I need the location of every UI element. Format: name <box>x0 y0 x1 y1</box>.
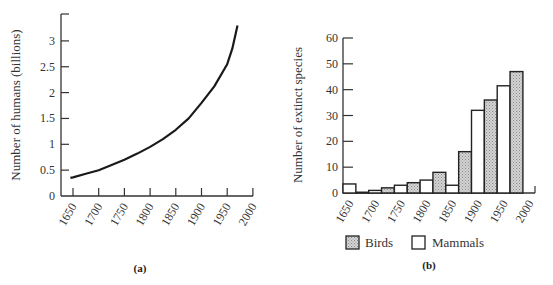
bar-mammals <box>420 180 433 193</box>
legend-swatch-birds <box>346 236 359 249</box>
y-tick-label: 30 <box>326 109 338 123</box>
bar-mammals <box>394 185 407 193</box>
x-tick-label: 1750 <box>384 198 408 226</box>
y-axis-title: Number of humans (billions) <box>8 29 23 180</box>
y-tick-label: 0 <box>332 186 338 200</box>
bar-birds <box>407 183 420 193</box>
legend-label-mammals: Mammals <box>432 235 484 250</box>
panel-label-a: (a) <box>134 262 147 275</box>
x-tick-label: 1950 <box>210 201 234 229</box>
bar-mammals <box>369 190 382 193</box>
x-tick-label: 1950 <box>487 198 511 226</box>
x-tick-label: 1800 <box>133 201 157 229</box>
bar-birds <box>510 72 523 193</box>
bar-birds <box>356 192 369 193</box>
bar-birds <box>433 172 446 193</box>
y-tick-label: 3 <box>49 34 55 48</box>
x-tick-label: 1650 <box>55 201 79 229</box>
x-tick-label: 1850 <box>158 201 182 229</box>
bar-birds <box>484 100 497 193</box>
y-tick-label: 1 <box>49 137 55 151</box>
y-tick-label: 0 <box>49 189 55 203</box>
y-axis-title: Number of extinct species <box>290 47 305 183</box>
bar-birds <box>382 188 395 193</box>
y-tick-label: 60 <box>326 31 338 45</box>
bar-mammals <box>446 185 459 193</box>
x-tick-label: 1800 <box>410 198 434 226</box>
y-tick-label: 40 <box>326 83 338 97</box>
y-tick-label: 2.5 <box>40 60 55 74</box>
x-tick-label: 1900 <box>184 201 208 229</box>
x-tick-label: 1900 <box>461 198 485 226</box>
y-tick-label: 20 <box>326 134 338 148</box>
x-tick-label: 1700 <box>81 201 105 229</box>
y-tick-label: 10 <box>326 160 338 174</box>
legend-swatch-mammals <box>412 236 425 249</box>
x-tick-label: 1650 <box>332 198 356 226</box>
y-tick-label: 50 <box>326 57 338 71</box>
bar-birds <box>459 152 472 193</box>
y-tick-label: 0.5 <box>40 163 55 177</box>
x-tick-label: 2000 <box>235 201 259 229</box>
y-tick-label: 2 <box>49 86 55 100</box>
bar-mammals <box>343 184 356 193</box>
chart-a-population: 00.511.522.53165017001750180018501900195… <box>8 14 259 275</box>
legend-label-birds: Birds <box>365 235 393 250</box>
population-line <box>70 25 237 178</box>
bar-mammals <box>472 110 485 193</box>
bar-mammals <box>497 86 510 193</box>
panel-label-b: (b) <box>422 259 436 272</box>
x-tick-label: 1700 <box>358 198 382 226</box>
x-tick-label: 2000 <box>512 198 536 226</box>
y-tick-label: 1.5 <box>40 111 55 125</box>
figure: 00.511.522.53165017001750180018501900195… <box>0 0 553 285</box>
chart-b-extinct-species: 0102030405060165017001750180018501900195… <box>290 31 536 272</box>
x-tick-label: 1750 <box>107 201 131 229</box>
x-tick-label: 1850 <box>435 198 459 226</box>
